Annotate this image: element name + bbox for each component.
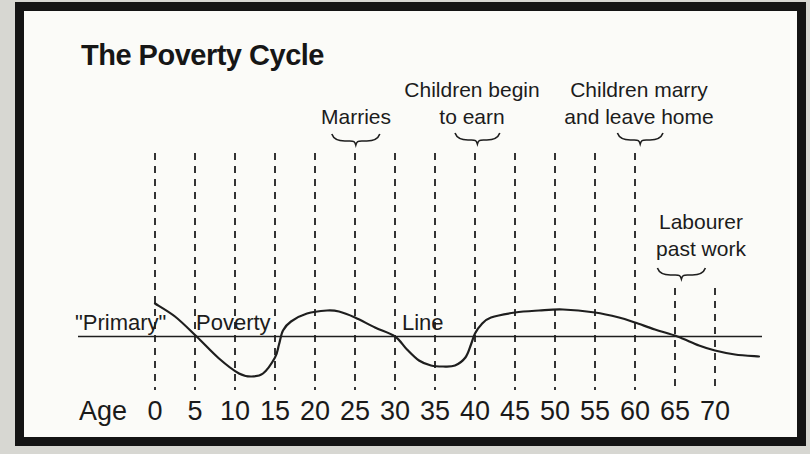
annotation-line: Labourer (656, 208, 746, 235)
age-tick-label-15: 15 (260, 396, 290, 427)
annotation-line: and leave home (564, 103, 713, 130)
annotation-brace-children-marry-and-leave-home (617, 133, 663, 144)
annotation-label-labourer-past-work: Labourerpast work (656, 208, 746, 262)
age-tick-label-0: 0 (147, 396, 162, 427)
age-tick-label-25: 25 (340, 396, 370, 427)
annotation-label-children-marry-and-leave-home: Children marryand leave home (564, 76, 713, 130)
annotation-label-children-begin-to-earn: Children beginto earn (404, 76, 539, 130)
poverty-cycle-figure: The Poverty Cycle MarriesChildren begint… (0, 0, 810, 454)
annotation-line: Children marry (564, 76, 713, 103)
age-tick-label-60: 60 (620, 396, 650, 427)
age-tick-label-50: 50 (540, 396, 570, 427)
age-tick-label-35: 35 (420, 396, 450, 427)
age-tick-label-40: 40 (460, 396, 490, 427)
annotation-line: past work (656, 235, 746, 262)
age-tick-label-5: 5 (187, 396, 202, 427)
annotation-brace-marries (332, 134, 380, 145)
age-tick-label-10: 10 (220, 396, 250, 427)
chart-layer: The Poverty Cycle MarriesChildren begint… (0, 0, 810, 454)
age-axis-label: Age (79, 396, 127, 427)
age-tick-label-70: 70 (700, 396, 730, 427)
age-tick-label-65: 65 (660, 396, 690, 427)
annotation-line: Children begin (404, 76, 539, 103)
age-tick-label-55: 55 (580, 396, 610, 427)
chart-title: The Poverty Cycle (81, 39, 324, 72)
annotation-label-marries: Marries (321, 103, 391, 130)
baseline-word-0: "Primary" (75, 310, 166, 336)
annotation-line: Marries (321, 103, 391, 130)
age-tick-label-20: 20 (300, 396, 330, 427)
annotation-brace-labourer-past-work (657, 268, 705, 279)
age-tick-label-30: 30 (380, 396, 410, 427)
baseline-word-2: Line (402, 310, 444, 336)
annotation-brace-children-begin-to-earn (455, 133, 500, 144)
age-tick-label-45: 45 (500, 396, 530, 427)
annotation-line: to earn (404, 103, 539, 130)
baseline-word-1: Poverty (196, 310, 271, 336)
